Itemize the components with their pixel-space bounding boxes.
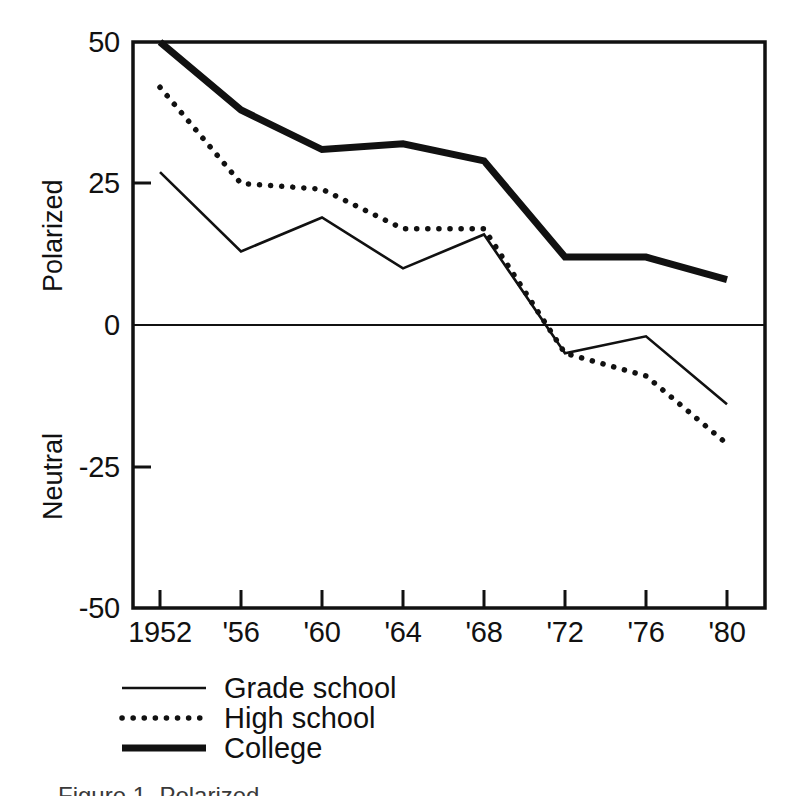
x-tick-label-80: '80 bbox=[672, 616, 782, 649]
series-line-grade-school bbox=[160, 172, 727, 404]
y-axis-title-neutral: Neutral bbox=[38, 433, 69, 520]
figure-caption: Figure 1. Polarized bbox=[58, 782, 758, 796]
figure-container: 50 25 0 -25 -50 1952 '56 '60 '64 '68 '72… bbox=[0, 0, 790, 796]
legend-label-college: College bbox=[224, 732, 322, 765]
x-tick-marks bbox=[160, 590, 727, 608]
y-tick-label-50: 50 bbox=[40, 26, 120, 59]
series-line-high-school bbox=[160, 87, 727, 444]
series-line-college bbox=[160, 42, 727, 280]
legend-label-high-school: High school bbox=[224, 702, 376, 735]
legend-label-grade-school: Grade school bbox=[224, 672, 397, 705]
series-layer bbox=[160, 42, 727, 444]
y-axis-title-polarized: Polarized bbox=[38, 179, 69, 292]
legend-swatches bbox=[122, 688, 206, 748]
y-tick-label-0: 0 bbox=[40, 309, 120, 342]
